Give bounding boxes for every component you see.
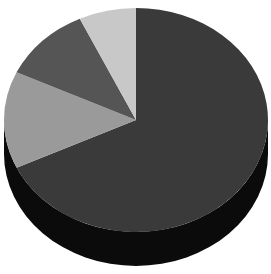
pie-chart-3d bbox=[0, 0, 271, 274]
